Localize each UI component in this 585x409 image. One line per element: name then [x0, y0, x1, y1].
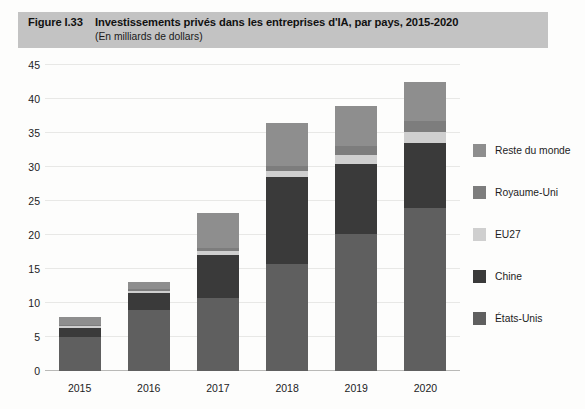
- bar-segment: [404, 143, 446, 209]
- legend-swatch-icon: [473, 186, 486, 199]
- bar-segment: [59, 317, 101, 325]
- bar-segment: [197, 255, 239, 297]
- y-tick-label: 20: [6, 229, 40, 241]
- page-title: Investissements privés dans les entrepri…: [95, 16, 458, 28]
- y-tick-label: 40: [6, 93, 40, 105]
- bar-segment: [128, 293, 170, 310]
- bar-group-2019: [335, 65, 377, 371]
- gridline-0: [45, 370, 460, 371]
- x-tick-label: 2017: [183, 382, 253, 394]
- legend-swatch-icon: [473, 270, 486, 283]
- gridline-35: [45, 132, 460, 133]
- bar-segment: [128, 291, 170, 293]
- y-tick-label: 30: [6, 161, 40, 173]
- x-tick-label: 2016: [114, 382, 184, 394]
- bar-segment: [266, 264, 308, 371]
- bar-segment: [335, 155, 377, 165]
- legend-item[interactable]: Chine: [473, 269, 522, 283]
- x-tick-label: 2020: [390, 382, 460, 394]
- legend-swatch-icon: [473, 312, 486, 325]
- y-tick-label: 25: [6, 195, 40, 207]
- figure-number: Figure I.33: [28, 16, 95, 28]
- bar-group-2018: [266, 65, 308, 371]
- bar-group-2017: [197, 65, 239, 371]
- legend-swatch-icon: [473, 228, 486, 241]
- legend-label: EU27: [495, 229, 521, 240]
- legend-item[interactable]: États-Unis: [473, 311, 543, 325]
- bar-segment: [404, 132, 446, 143]
- plot-area: [45, 65, 460, 371]
- bar-segment: [266, 123, 308, 166]
- bar-segment: [197, 298, 239, 371]
- legend-label: Reste du monde: [495, 145, 571, 156]
- bar-segment: [266, 177, 308, 264]
- gridline-45: [45, 64, 460, 65]
- bar-group-2015: [59, 65, 101, 371]
- legend-item[interactable]: Reste du monde: [473, 143, 571, 157]
- gridline-5: [45, 336, 460, 337]
- bar-segment: [197, 213, 239, 248]
- legend-item[interactable]: EU27: [473, 227, 521, 241]
- legend-label: Chine: [495, 271, 522, 282]
- bar-group-2020: [404, 65, 446, 371]
- bar-segment: [335, 106, 377, 146]
- legend-label: Royaume-Uni: [495, 187, 558, 198]
- bar-segment: [266, 171, 308, 177]
- gridline-30: [45, 166, 460, 167]
- figure-subtitle: (En milliards de dollars): [95, 31, 203, 42]
- bar-segment: [59, 326, 101, 328]
- bar-segment: [197, 248, 239, 251]
- gridline-15: [45, 268, 460, 269]
- figure-container: Figure I.33Investissements privés dans l…: [0, 0, 585, 409]
- y-tick-label: 0: [6, 365, 40, 377]
- legend-item[interactable]: Royaume-Uni: [473, 185, 558, 199]
- bar-group-2016: [128, 65, 170, 371]
- bar-segment: [335, 234, 377, 371]
- figure-title-line: Figure I.33Investissements privés dans l…: [28, 16, 458, 28]
- bar-segment: [128, 289, 170, 291]
- bar-segment: [59, 325, 101, 326]
- figure-title-band: Figure I.33Investissements privés dans l…: [18, 12, 548, 48]
- gridline-10: [45, 302, 460, 303]
- bar-segment: [404, 208, 446, 371]
- y-tick-label: 5: [6, 331, 40, 343]
- bar-segment: [59, 337, 101, 371]
- x-tick-label: 2019: [321, 382, 391, 394]
- x-tick-label: 2015: [45, 382, 115, 394]
- y-tick-label: 10: [6, 297, 40, 309]
- gridline-40: [45, 98, 460, 99]
- legend-label: États-Unis: [495, 313, 543, 324]
- x-tick-label: 2018: [252, 382, 322, 394]
- gridline-20: [45, 234, 460, 235]
- y-tick-label: 35: [6, 127, 40, 139]
- bar-segment: [404, 82, 446, 121]
- bar-segment: [197, 251, 239, 255]
- legend-swatch-icon: [473, 144, 486, 157]
- y-tick-label: 15: [6, 263, 40, 275]
- bar-segment: [59, 328, 101, 337]
- y-tick-label: 45: [6, 59, 40, 71]
- bar-segment: [404, 121, 446, 131]
- bar-segment: [335, 164, 377, 233]
- bar-segment: [128, 282, 170, 289]
- bar-segment: [266, 166, 308, 171]
- bar-segment: [335, 146, 377, 155]
- gridline-25: [45, 200, 460, 201]
- bar-segment: [128, 310, 170, 371]
